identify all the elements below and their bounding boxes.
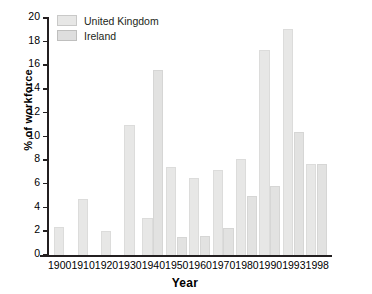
bar-ireland-1960 [200,236,210,255]
x-tick-label: 1920 [95,259,118,271]
bar-united-kingdom-1940 [142,218,152,255]
x-axis-title: Year [40,276,330,290]
bar-united-kingdom-1910 [78,199,88,255]
bar-united-kingdom-1930 [124,125,134,255]
y-tick-mark [43,112,48,114]
bar-united-kingdom-1998 [306,164,316,255]
y-tick-mark [43,88,48,90]
x-tick-label: 1980 [235,259,258,271]
y-tick-mark [43,207,48,209]
bar-ireland-1993 [294,132,304,255]
bar-united-kingdom-1900 [54,227,64,255]
bar-united-kingdom-1920 [101,231,111,255]
y-tick-mark [43,136,48,138]
bar-united-kingdom-1990 [259,50,269,255]
legend-label-ireland: Ireland [84,30,116,42]
y-tick-mark [43,183,48,185]
x-tick-label: 1993 [282,259,305,271]
y-tick-mark [43,230,48,232]
y-tick-label: 8 [34,152,40,164]
y-tick-mark [43,17,48,19]
x-tick-label: 1998 [306,259,329,271]
legend-swatch-icon-ireland [57,30,77,41]
bar-ireland-1940 [153,70,163,255]
x-tick-label: 1900 [48,259,71,271]
bar-united-kingdom-1993 [283,29,293,255]
bar-united-kingdom-1950 [166,167,176,255]
y-tick-label: 20 [28,10,40,22]
x-tick-label: 1930 [118,259,141,271]
y-tick-label: 10 [28,129,40,141]
y-tick-label: 16 [28,57,40,69]
bar-ireland-1970 [223,228,233,255]
y-tick-mark [43,41,48,43]
x-tick-label: 1960 [189,259,212,271]
legend-label-united-kingdom: United Kingdom [84,15,159,27]
chart-legend: United Kingdom Ireland [57,14,159,44]
x-tick-label: 1910 [71,259,94,271]
y-tick-label: 4 [34,200,40,212]
y-tick-label: 18 [28,34,40,46]
legend-swatch-icon-united-kingdom [57,15,77,26]
bar-united-kingdom-1970 [213,170,223,255]
bar-ireland-1998 [317,164,327,255]
bars-layer [49,18,330,255]
bar-united-kingdom-1960 [189,178,199,255]
y-tick-mark [43,254,48,256]
x-tick-label: 1950 [165,259,188,271]
bar-ireland-1980 [247,196,257,255]
y-tick-label: 12 [28,105,40,117]
y-tick-label: 0 [34,247,40,259]
y-tick-mark [43,64,48,66]
y-tick-label: 6 [34,176,40,188]
legend-item-united-kingdom: United Kingdom [57,14,159,27]
y-tick-mark [43,159,48,161]
y-tick-label: 2 [34,223,40,235]
x-tick-label: 1990 [259,259,282,271]
x-tick-label: 1970 [212,259,235,271]
y-tick-label: 14 [28,81,40,93]
bar-united-kingdom-1980 [236,159,246,255]
bar-ireland-1990 [270,186,280,255]
bar-chart: % of workforce 02468101214161820 1900191… [0,0,372,294]
x-axis-line [40,255,332,257]
x-tick-label: 1940 [142,259,165,271]
legend-item-ireland: Ireland [57,29,159,42]
bar-ireland-1950 [177,237,187,255]
